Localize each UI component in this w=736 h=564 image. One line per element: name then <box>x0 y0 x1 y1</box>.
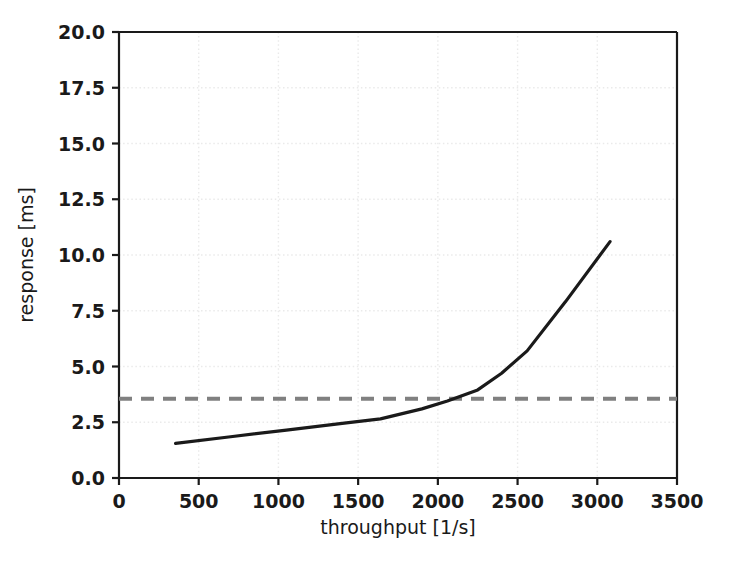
y-tick-label: 20.0 <box>58 21 105 43</box>
y-tick-label: 10.0 <box>58 244 105 266</box>
x-tick-label: 3000 <box>571 490 624 512</box>
y-tick-label: 5.0 <box>71 356 105 378</box>
x-axis-label: throughput [1/s] <box>320 516 475 538</box>
x-tick-label: 1000 <box>252 490 305 512</box>
line-chart: 0.02.55.07.510.012.515.017.520.0 0500100… <box>0 0 736 564</box>
y-tick-label: 17.5 <box>58 77 105 99</box>
x-tick-label: 1500 <box>332 490 385 512</box>
y-tick-label: 2.5 <box>71 411 105 433</box>
y-tick-label: 15.0 <box>58 133 105 155</box>
x-tick-label: 500 <box>179 490 219 512</box>
y-tick-label: 12.5 <box>58 188 105 210</box>
x-tick-label: 0 <box>112 490 125 512</box>
y-axis-label: response [ms] <box>15 187 37 323</box>
y-tick-label: 7.5 <box>71 300 105 322</box>
x-tick-label: 2500 <box>491 490 544 512</box>
x-tick-label: 2000 <box>411 490 464 512</box>
figure-background <box>0 0 736 564</box>
chart-figure: 0.02.55.07.510.012.515.017.520.0 0500100… <box>0 0 736 564</box>
x-tick-label: 3500 <box>651 490 704 512</box>
y-tick-label: 0.0 <box>71 467 105 489</box>
